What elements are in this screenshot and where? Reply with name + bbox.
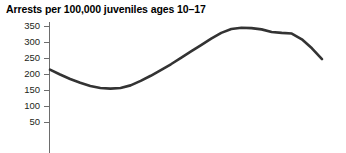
y-axis <box>44 22 50 153</box>
data-series-line <box>50 28 322 89</box>
plot-area <box>0 0 346 153</box>
juvenile-arrest-rate-chart: Arrests per 100,000 juveniles ages 10–17… <box>0 0 346 153</box>
